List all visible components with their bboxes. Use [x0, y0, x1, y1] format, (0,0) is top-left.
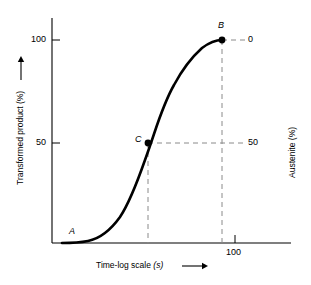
- point-marker-c: [145, 140, 152, 147]
- chart-canvas: [0, 0, 311, 285]
- y-axis-arrow: [18, 56, 24, 80]
- x-tick-label-100: 100: [226, 248, 241, 257]
- chart-container: 100 50 100 0 50 A B C Transformed produc…: [0, 0, 311, 285]
- x-axis-title-unit: (s): [153, 260, 163, 270]
- x-axis-title-main: Time-log scale: [96, 260, 151, 270]
- right-tick-label-0: 0: [248, 35, 253, 44]
- transformation-curve: [62, 40, 222, 243]
- point-label-a: A: [69, 227, 75, 236]
- point-marker-b: [219, 37, 226, 44]
- y-tick-label-50: 50: [36, 138, 46, 147]
- y-tick-label-100: 100: [31, 35, 46, 44]
- point-label-c: C: [135, 135, 142, 144]
- x-axis-arrow: [182, 263, 208, 269]
- y-axis-left-title: Transformed product (%): [16, 91, 25, 185]
- y-axis-right-title: Austenite (%): [288, 127, 297, 178]
- right-tick-label-50: 50: [248, 138, 258, 147]
- point-label-b: B: [218, 21, 224, 30]
- x-axis-title: Time-log scale (s): [96, 261, 163, 270]
